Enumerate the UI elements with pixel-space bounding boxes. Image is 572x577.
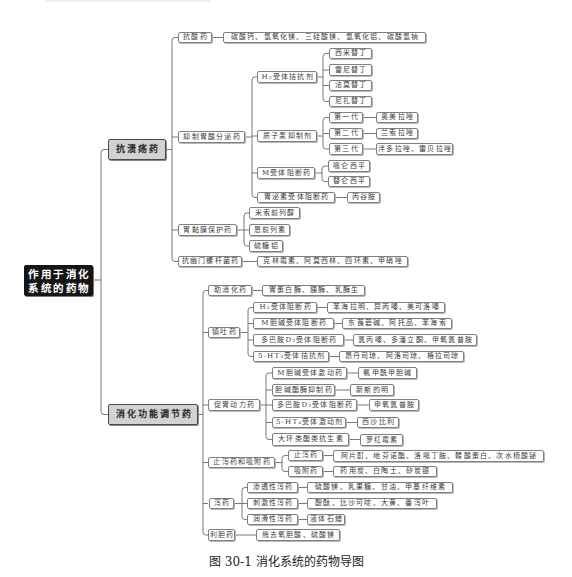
node-h2-antagonists: H₂受体拮抗剂 xyxy=(257,71,317,83)
node-ppi-gen3: 第三代 xyxy=(329,143,363,155)
drug-liquid-paraffin: 液体石蜡 xyxy=(307,514,345,525)
mindmap-root: 作用于消化 系统的药物 xyxy=(24,265,93,296)
drug-list-choleretics: 熊去氧胆酸、硫酸镁 xyxy=(256,529,340,541)
node-m-cholinergic-blockers: M胆碱受体阻断药 xyxy=(253,318,334,329)
node-osmotic-laxatives: 渗透性泻药 xyxy=(247,482,298,493)
node-m-receptor-blockers: M受体阻断药 xyxy=(257,167,315,179)
node-laxatives: 泻药 xyxy=(209,498,234,509)
node-ppi-gen2: 第二代 xyxy=(329,128,363,139)
mindmap-figure: 作用于消化 系统的药物 抗溃疡药 抗酸药 碳酸钙、氢氧化镁、三硅酸镁、氢氧化铝、… xyxy=(0,0,572,577)
node-ppi-gen1: 第一代 xyxy=(329,112,363,123)
drug-pirenzepine: 哌仑西平 xyxy=(328,160,370,172)
node-proton-pump-inhibitors: 质子泵抑制剂 xyxy=(257,130,317,142)
drug-ranitidine: 雷尼替丁 xyxy=(329,64,372,76)
drug-enprostil: 恩前列素 xyxy=(249,224,290,236)
drug-roxithromycin: 罗红霉素 xyxy=(360,434,403,446)
node-adsorbents: 吸附药 xyxy=(288,466,323,477)
node-lubricant-laxatives: 润滑性泻药 xyxy=(247,514,298,525)
node-antacids: 抗酸药 xyxy=(178,32,212,43)
drug-list-antacids: 碳酸钙、氢氧化镁、三硅酸镁、氢氧化铝、碳酸氢钠 xyxy=(223,32,426,43)
node-stimulant-laxatives: 刺激性泻药 xyxy=(247,498,298,509)
node-antiemetics: 镇吐药 xyxy=(208,327,240,338)
drug-metoclopramide: 甲氧氯普胺 xyxy=(369,399,419,411)
drug-list-antidiarrheals: 阿片酊、地芬诺酯、洛哌丁胺、鞣酸蛋白、次水杨酸铋 xyxy=(333,450,544,462)
root-label-line1: 作用于消化 xyxy=(28,267,91,281)
drug-list-d2-blockers-antiemetic: 氯丙嗪、多潘立酮、甲氧氯普胺 xyxy=(353,334,477,346)
drug-list-anti-h-pylori: 克林霉素、阿莫西林、四环素、甲硝唑 xyxy=(257,256,408,267)
node-digestants: 助消化药 xyxy=(208,285,252,296)
drug-proglumide: 丙谷胺 xyxy=(347,192,380,203)
branch-anti-ulcer: 抗溃疡药 xyxy=(108,139,166,160)
drug-misoprostol: 米索前列醇 xyxy=(249,207,300,219)
drug-list-ppi-gen2: 兰索拉唑 xyxy=(376,128,418,139)
drug-list-osmotic-laxatives: 硫酸镁、乳果糖、甘油、甲基纤维素 xyxy=(307,482,453,493)
drug-list-adsorbents: 药用炭、白陶土、矽炭银 xyxy=(333,466,437,477)
node-d2-blockers-prokinetic: 多巴胺D₂受体阻断药 xyxy=(272,399,357,411)
drug-list-ppi-gen1: 奥美拉唑 xyxy=(376,112,418,123)
node-mucosal-protectants: 胃黏膜保护药 xyxy=(178,224,237,236)
node-5ht4-agonists: 5-HT₄受体激动剂 xyxy=(272,417,346,428)
node-cholinesterase-inhibitors: 胆碱酯酶抑制药 xyxy=(272,384,335,396)
root-label-line2: 系统的药物 xyxy=(28,281,91,295)
node-acid-secretion-inhibitors: 抑制胃酸分泌药 xyxy=(178,131,245,143)
drug-bethanechol: 氨甲酰甲胆碱 xyxy=(358,367,417,379)
drug-telenzepine: 替仑西平 xyxy=(328,176,370,187)
figure-caption: 图 30-1 消化系统的药物导图 xyxy=(209,552,364,569)
node-antidiarrheals: 止泻药 xyxy=(288,450,323,461)
drug-list-h1-blockers: 苯海拉明、异丙嗪、美可洛嗪 xyxy=(327,302,445,313)
drug-neostigmine: 新斯的明 xyxy=(350,384,394,396)
node-h1-blockers: H₁受体阻断药 xyxy=(253,302,317,313)
node-macrolide-antibiotics: 大环类酯类抗生素 xyxy=(272,433,349,446)
drug-famotidine: 法莫替丁 xyxy=(329,80,372,91)
drug-list-m-cholinergic-blockers: 东莨菪碱、阿托品、苯海索 xyxy=(342,318,452,329)
node-gastrin-receptor-blockers: 胃泌素受体阻断药 xyxy=(257,192,335,203)
node-choleretics: 利胆药 xyxy=(208,529,235,541)
node-antidiarrheals-adsorbents: 止泻药和吸附药 xyxy=(208,457,275,468)
branch-digestive-function-regulators: 消化功能调节药 xyxy=(108,404,198,425)
drug-list-digestants: 胃蛋白酶、胰酶、乳酶生 xyxy=(262,285,365,296)
node-5ht3-antagonists: 5-HT₃受体拮抗剂 xyxy=(253,351,329,362)
drug-cisapride: 西沙比利 xyxy=(357,417,399,428)
drug-list-ppi-gen3: 泮多拉唑、雷贝拉唑 xyxy=(376,143,453,155)
node-prokinetics: 促胃动力药 xyxy=(208,399,260,411)
drug-sucralfate: 硫糖铝 xyxy=(249,240,283,252)
node-m-cholinergic-agonists: M胆碱受体激动药 xyxy=(272,367,347,379)
drug-nizatidine: 尼扎替丁 xyxy=(329,96,372,107)
drug-cimetidine: 西米替丁 xyxy=(329,48,372,59)
node-anti-h-pylori: 抗幽门螺杆菌药 xyxy=(178,256,242,267)
drug-list-stimulant-laxatives: 酚酞、比沙可啶、大黄、番泻叶 xyxy=(307,498,437,509)
node-d2-blockers-antiemetic: 多巴胺D₂受体阻断药 xyxy=(253,334,344,346)
drug-list-5ht3-antagonists: 昂丹司琼、阿洛司琼、格拉司琼 xyxy=(339,351,464,362)
